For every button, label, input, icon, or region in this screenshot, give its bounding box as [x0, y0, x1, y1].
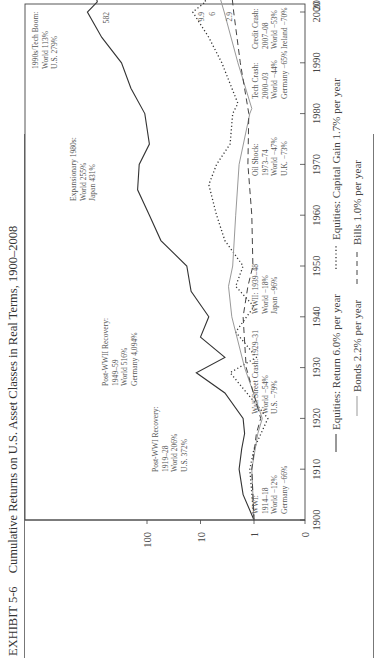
end-value-label: 2.9 [225, 12, 234, 22]
annotation-wwi: WWI:1914–18World −12%Germany −66% [251, 465, 289, 514]
annotation-oil_shock: Oil Shock:1973–74World −47%U.K. −73% [251, 136, 289, 176]
annotation-tech_crash: Tech Crash:2000–03World −44%Germany −65% [251, 50, 289, 99]
x-tick-label: 2008 [311, 0, 322, 11]
annotations: WWI:1914–18World −12%Germany −66%Post-WW… [31, 7, 289, 514]
x-tick-label: 1970 [311, 154, 322, 175]
x-tick-label: 1920 [311, 408, 322, 429]
line-chart: 0110100 19001910192019301940195019601970… [0, 0, 379, 664]
y-tick-label: 100 [142, 532, 153, 548]
x-tick-label: 1960 [311, 205, 322, 226]
annotation-wall_street: Wall Street Crash: 1929–31World −54%U.S.… [251, 330, 279, 414]
annotation-post_wwi: Post-WWI Recovery:1919–28World 206%U.S. … [151, 406, 189, 472]
legend: Equities: Return 6.0% per yearEquities: … [330, 78, 363, 452]
legend-equities-capital-gain: Equities: Capital Gain 1.7% per year [330, 78, 342, 240]
x-tick-label: 1910 [311, 459, 322, 480]
x-tick-label: 1990 [311, 52, 322, 73]
x-tick-label: 1900 [311, 510, 322, 531]
x-axis: 1900191019201930194019501960197019801990… [300, 0, 322, 531]
y-tick-label: 1 [249, 532, 260, 537]
end-value-label: 582 [102, 12, 111, 24]
x-tick-label: 1980 [311, 103, 322, 124]
end-value-label: 6 [208, 12, 217, 16]
end-labels: 5829.962.9 [102, 12, 234, 24]
y-axis: 0110100 [25, 520, 311, 548]
y-tick-label: 10 [196, 532, 207, 543]
x-tick-label: 1940 [311, 306, 322, 327]
legend-bonds: Bonds 2.2% per year [351, 299, 363, 392]
annotation-post_wwii: Post-WWII Recovery:1949–59World 516%Germ… [101, 318, 139, 386]
y-tick-label: 0 [300, 532, 311, 537]
annotation-wwii: WWII: 1939–48World −18%Japan −96% [251, 264, 279, 314]
annotation-expansionary_1980s: Expansionary 1980s:World 255%Japan 431% [69, 137, 97, 201]
x-tick-label: 1950 [311, 256, 322, 277]
rotated-exhibit: EXHIBIT 5-6 Cumulative Returns on U.S. A… [0, 0, 379, 664]
annotation-credit_crash: Credit Crash:2007–08World −53%Ireland −7… [251, 7, 289, 49]
x-tick-label: 1930 [311, 357, 322, 378]
end-value-label: 9.9 [197, 12, 206, 22]
legend-bills: Bills 1.0% per year [351, 160, 363, 245]
annotation-tech_boom: 1990s/Tech Boom:World 113%U.S. 279% [31, 12, 59, 69]
legend-equities-return: Equities: Return 6.0% per year [330, 294, 342, 430]
